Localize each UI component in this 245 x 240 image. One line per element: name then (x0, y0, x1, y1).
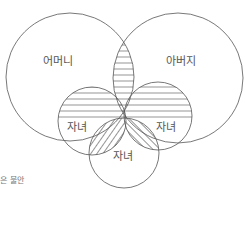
right-child-label: 자녀 (156, 122, 176, 133)
caption-text: 은 불안 (0, 177, 24, 185)
mother-label: 어머니 (43, 56, 73, 67)
left-child-label: 자녀 (67, 122, 87, 133)
bottom-child-label: 자녀 (113, 151, 133, 162)
father-label: 아버지 (166, 56, 196, 67)
